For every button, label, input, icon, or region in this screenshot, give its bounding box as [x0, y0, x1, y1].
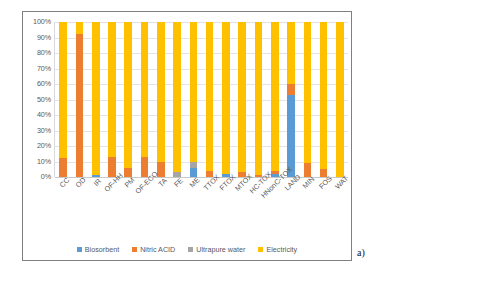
- y-axis-tick-label: 20%: [37, 142, 51, 149]
- bar-segment: [173, 22, 181, 172]
- x-axis-slot: MIN: [298, 178, 314, 240]
- bar-segment: [222, 22, 230, 174]
- y-axis-tick-label: 100%: [33, 18, 51, 25]
- legend-label: Biosorbent: [85, 246, 119, 253]
- y-axis-tick-label: 50%: [37, 96, 51, 103]
- bar-slot: [88, 22, 104, 177]
- y-axis-tick-label: 10%: [37, 158, 51, 165]
- bar-segment: [336, 22, 344, 177]
- bar-ftox[interactable]: [222, 22, 230, 177]
- bar-slot: [234, 22, 250, 177]
- x-axis-slot: OD: [70, 178, 86, 240]
- x-axis-slot: TTOX: [201, 178, 217, 240]
- x-axis-tick-label: FE: [173, 177, 185, 189]
- x-axis-slot: CC: [54, 178, 70, 240]
- bar-of-eco[interactable]: [141, 22, 149, 177]
- bar-slot: [185, 22, 201, 177]
- bar-segment: [59, 158, 67, 177]
- bar-hc-tox[interactable]: [255, 22, 263, 177]
- legend-item[interactable]: Nitric ACID: [132, 246, 175, 253]
- bar-slot: [332, 22, 348, 177]
- legend-label: Electricity: [266, 246, 297, 253]
- x-axis-slot: OF-HH: [103, 178, 119, 240]
- bar-fos[interactable]: [320, 22, 328, 177]
- legend-item[interactable]: Ultrapure water: [188, 246, 245, 253]
- x-axis-slot: PM: [119, 178, 135, 240]
- bar-pm[interactable]: [124, 22, 132, 177]
- bar-segment: [271, 22, 279, 171]
- legend-swatch-icon: [258, 247, 263, 252]
- bar-slot: [55, 22, 71, 177]
- x-axis-tick-label: OD: [75, 176, 88, 189]
- bar-slot: [169, 22, 185, 177]
- legend-item[interactable]: Biosorbent: [77, 246, 119, 253]
- y-axis-tick-label: 70%: [37, 65, 51, 72]
- x-axis-tick-label: CC: [58, 176, 70, 188]
- bar-slot: [71, 22, 87, 177]
- x-axis-slot: WAT: [331, 178, 347, 240]
- bar-ta[interactable]: [157, 22, 165, 177]
- x-axis-slot: FE: [168, 178, 184, 240]
- bar-slot: [250, 22, 266, 177]
- bar-segment: [141, 22, 149, 157]
- bar-segment: [287, 22, 295, 84]
- bar-mtox[interactable]: [238, 22, 246, 177]
- x-axis-tick-label: IR: [92, 177, 102, 187]
- bar-slot: [218, 22, 234, 177]
- y-axis-tick-label: 40%: [37, 111, 51, 118]
- bar-segment: [190, 22, 198, 162]
- legend-swatch-icon: [188, 247, 193, 252]
- chart-legend: BiosorbentNitric ACIDUltrapure waterElec…: [23, 246, 351, 253]
- legend-label: Ultrapure water: [196, 246, 245, 253]
- bar-segment: [304, 22, 312, 163]
- bar-segment: [124, 22, 132, 168]
- bar-segment: [320, 22, 328, 169]
- x-axis-slot: OF-ECO: [135, 178, 151, 240]
- x-axis-slot: HC-TOX: [249, 178, 265, 240]
- bar-slot: [267, 22, 283, 177]
- bar-segment: [59, 22, 67, 158]
- bar-slot: [153, 22, 169, 177]
- y-axis-tick-label: 90%: [37, 34, 51, 41]
- bar-segment: [92, 22, 100, 175]
- plot-area: [54, 22, 348, 177]
- bar-wat[interactable]: [336, 22, 344, 177]
- bar-slot: [202, 22, 218, 177]
- bar-min[interactable]: [304, 22, 312, 177]
- y-axis-tick-label: 60%: [37, 80, 51, 87]
- x-axis-slot: LAND: [282, 178, 298, 240]
- chart-frame: 100%90%80%70%60%50%40%30%20%10%0% CCODIR…: [22, 11, 352, 261]
- x-axis-tick-label: ME: [189, 176, 202, 189]
- bar-cc[interactable]: [59, 22, 67, 177]
- x-axis-slot: TA: [152, 178, 168, 240]
- bar-land[interactable]: [287, 22, 295, 177]
- bar-segment: [238, 22, 246, 172]
- bar-segment: [108, 22, 116, 157]
- bar-hnonc-tox[interactable]: [271, 22, 279, 177]
- x-axis-tick-label: TA: [157, 177, 168, 188]
- x-axis-slot: MTOX: [233, 178, 249, 240]
- x-axis: CCODIROF-HHPMOF-ECOTAFEMETTOXFTOXMTOXHC-…: [54, 178, 347, 240]
- bar-me[interactable]: [190, 22, 198, 177]
- bar-of-hh[interactable]: [108, 22, 116, 177]
- bar-segment: [76, 22, 84, 34]
- plot-wrapper: 100%90%80%70%60%50%40%30%20%10%0% CCODIR…: [23, 12, 351, 260]
- x-axis-slot: HNonC-TOX: [266, 178, 282, 240]
- bar-ttox[interactable]: [206, 22, 214, 177]
- bar-fe[interactable]: [173, 22, 181, 177]
- bar-slot: [104, 22, 120, 177]
- bar-segment: [157, 22, 165, 162]
- bar-od[interactable]: [76, 22, 84, 177]
- legend-swatch-icon: [132, 247, 137, 252]
- x-axis-slot: ME: [184, 178, 200, 240]
- bar-series-group: [55, 22, 348, 177]
- x-axis-slot: FTOX: [217, 178, 233, 240]
- y-axis-tick-label: 30%: [37, 127, 51, 134]
- legend-swatch-icon: [77, 247, 82, 252]
- bar-ir[interactable]: [92, 22, 100, 177]
- legend-item[interactable]: Electricity: [258, 246, 297, 253]
- x-axis-slot: IR: [87, 178, 103, 240]
- y-axis: 100%90%80%70%60%50%40%30%20%10%0%: [23, 22, 53, 177]
- bar-segment: [206, 22, 214, 171]
- subfigure-label: a): [357, 247, 365, 258]
